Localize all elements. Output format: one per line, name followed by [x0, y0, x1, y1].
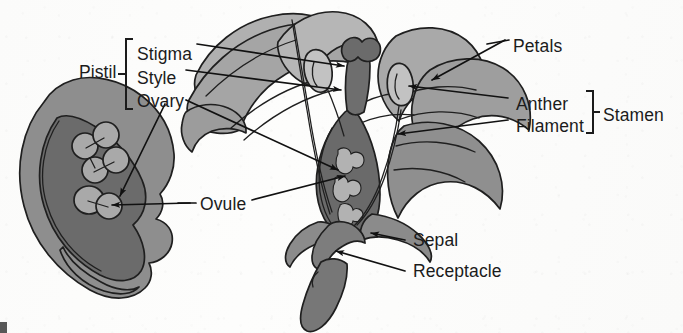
scan-corner-mark: [0, 322, 7, 333]
label-anther: Anther: [516, 96, 568, 114]
label-pistil: Pistil: [79, 64, 117, 82]
leader-ovary-main: [186, 100, 338, 170]
anther-right: [387, 63, 413, 105]
ovary-ovule-pattern: [333, 148, 364, 226]
label-petals: Petals: [513, 38, 562, 56]
stigma: [342, 38, 381, 62]
label-ovule: Ovule: [200, 196, 246, 214]
label-stigma: Stigma: [137, 46, 192, 64]
main-flower-illustration: [181, 12, 530, 332]
label-receptacle: Receptacle: [413, 263, 502, 281]
receptacle: [301, 259, 347, 332]
flower-diagram-page: .ol { stroke:#1f1f1f; stroke-width:1.7; …: [0, 0, 683, 333]
label-sepal: Sepal: [413, 232, 458, 250]
label-filament: Filament: [516, 118, 584, 136]
petal-lower-right: [388, 122, 503, 218]
label-style: Style: [137, 70, 176, 88]
flower-illustration: .ol { stroke:#1f1f1f; stroke-width:1.7; …: [0, 0, 683, 333]
label-ovary: Ovary: [137, 93, 184, 111]
label-stamen: Stamen: [603, 107, 664, 125]
